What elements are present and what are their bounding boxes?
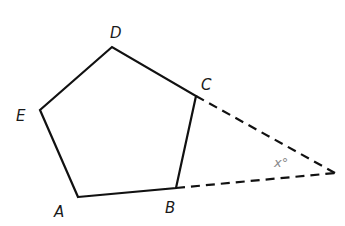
angle-label-x: x°	[273, 155, 288, 170]
pentagon-abcde	[40, 47, 196, 197]
extension-line-from-c	[196, 96, 335, 173]
vertex-label-c: C	[201, 76, 212, 94]
pentagon-diagram: D C E A B x°	[0, 0, 345, 226]
vertex-label-e: E	[16, 107, 26, 125]
vertex-label-b: B	[165, 199, 175, 217]
vertex-label-d: D	[110, 24, 122, 42]
extension-line-from-b	[176, 173, 335, 188]
vertex-label-a: A	[53, 203, 64, 221]
